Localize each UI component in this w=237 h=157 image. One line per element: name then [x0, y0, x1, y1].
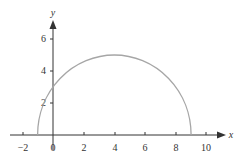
- x-tick-label: −2: [18, 142, 29, 153]
- chart: −2 0 2 4 6 8 10 2 4 6 x y: [0, 0, 237, 157]
- y-axis-label: y: [50, 7, 56, 18]
- x-tick-label: 8: [174, 142, 179, 153]
- x-tick-label: 10: [201, 142, 211, 153]
- semicircle-curve: [38, 55, 192, 135]
- y-tick-label: 6: [41, 33, 46, 44]
- x-tick-label: 2: [82, 142, 87, 153]
- x-axis-arrow-icon: [217, 132, 226, 139]
- y-axis-arrow-icon: [50, 20, 57, 29]
- x-axis-label: x: [228, 129, 234, 140]
- x-tick-label: 4: [113, 142, 118, 153]
- y-tick-label: 4: [41, 65, 46, 76]
- x-tick-label: 0: [51, 142, 56, 153]
- x-tick-label: 6: [143, 142, 148, 153]
